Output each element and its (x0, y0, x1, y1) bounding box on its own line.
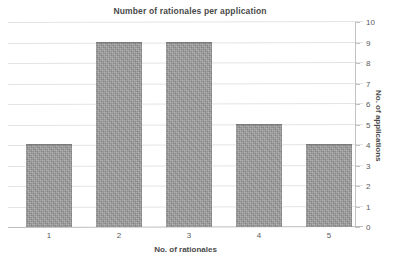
chart-title: Number of rationales per application (0, 6, 380, 16)
y-tick-4 (356, 145, 360, 146)
y-tick-label-3: 3 (366, 161, 380, 170)
bar-3 (166, 42, 212, 228)
plot-area (8, 22, 363, 227)
y-tick-label-8: 8 (366, 59, 380, 68)
bar-chart-figure: Number of rationales per application 012… (0, 0, 413, 265)
y-tick-label-0: 0 (366, 223, 380, 232)
x-tick-label-1: 1 (26, 231, 72, 240)
y-tick-1 (356, 207, 360, 208)
y-tick-label-10: 10 (366, 18, 380, 27)
x-tick-label-3: 3 (166, 231, 212, 240)
bar-2 (96, 42, 142, 228)
y-tick-label-2: 2 (366, 182, 380, 191)
bar-5 (306, 144, 352, 227)
bar-1 (26, 144, 72, 227)
y-tick-7 (356, 84, 360, 85)
y-tick-10 (356, 22, 360, 23)
y-tick-5 (356, 125, 360, 126)
x-tick-label-2: 2 (96, 231, 142, 240)
y-tick-2 (356, 186, 360, 187)
y-tick-label-1: 1 (366, 202, 380, 211)
y-tick-8 (356, 63, 360, 64)
gridline-10 (8, 21, 363, 23)
y-tick-9 (356, 43, 360, 44)
y-tick-0 (356, 227, 360, 228)
bar-4 (236, 124, 282, 228)
y-tick-label-7: 7 (366, 79, 380, 88)
y-tick-label-9: 9 (366, 38, 380, 47)
x-tick-label-4: 4 (236, 231, 282, 240)
y-tick-3 (356, 166, 360, 167)
x-axis-title: No. of rationales (8, 245, 363, 254)
y-axis-title: No. of applications (374, 90, 383, 162)
x-tick-label-5: 5 (306, 231, 352, 240)
y-tick-6 (356, 104, 360, 105)
